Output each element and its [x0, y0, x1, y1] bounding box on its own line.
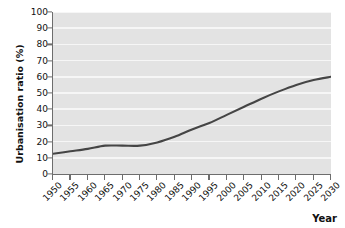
y-tick-label: 10	[20, 153, 48, 162]
y-tick-label: 40	[20, 105, 48, 114]
y-tick-label: 0	[20, 170, 48, 179]
x-tick-label: 1970	[110, 180, 133, 203]
y-tick-label: 90	[20, 24, 48, 33]
y-tick-label: 80	[20, 40, 48, 49]
plot-area	[52, 12, 331, 175]
data-line	[53, 77, 331, 154]
x-tick-label: 1960	[76, 180, 99, 203]
y-tick-label: 100	[20, 8, 48, 17]
x-axis-title: Year	[312, 213, 337, 224]
x-tick-label: 2020	[284, 180, 307, 203]
x-tick-label: 2000	[215, 180, 238, 203]
x-tick-label: 1995	[197, 180, 220, 203]
series-line-urbanisation-ratio	[53, 12, 331, 174]
y-tick-label: 50	[20, 89, 48, 98]
x-tick-label: 2010	[249, 180, 272, 203]
x-tick-label: 1980	[145, 180, 168, 203]
x-tick-label: 1985	[162, 180, 185, 203]
y-tick-label: 20	[20, 137, 48, 146]
y-axis-tick-labels: 0102030405060708090100	[20, 12, 48, 174]
chart-figure: Urbanisation ratio (%) 01020304050607080…	[0, 0, 345, 228]
x-axis-tick-labels: 1950195519601965197019751980198519901995…	[0, 180, 345, 214]
y-tick-label: 60	[20, 72, 48, 81]
x-tick-label: 2025	[301, 180, 324, 203]
y-tick-label: 70	[20, 56, 48, 65]
y-tick-label: 30	[20, 121, 48, 130]
x-tick-label: 1955	[58, 180, 81, 203]
